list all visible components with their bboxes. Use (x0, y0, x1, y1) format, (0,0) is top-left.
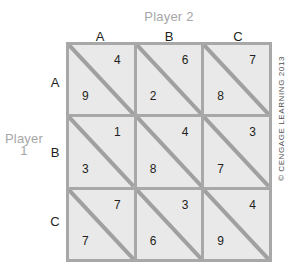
column-player-title: Player 2 (66, 9, 272, 24)
cell-diagonal-line (69, 117, 134, 186)
matrix-cell-b-b: 4 8 (137, 117, 202, 186)
matrix-cell-c-c: 4 9 (204, 190, 269, 259)
payoff-row-player: 6 (150, 235, 157, 247)
payoff-column-player: 7 (114, 199, 121, 211)
cell-diagonal-line (204, 45, 269, 114)
payoff-column-player: 4 (114, 54, 121, 66)
cell-diagonal-line (204, 190, 269, 259)
payoff-column-player: 6 (182, 54, 189, 66)
payoff-row-player: 8 (217, 90, 224, 102)
payoff-column-player: 4 (182, 126, 189, 138)
payoff-matrix-grid: 4 9 6 2 7 8 1 3 (66, 42, 272, 262)
payoff-column-player: 3 (182, 199, 189, 211)
matrix-cell-b-a: 1 3 (69, 117, 134, 186)
matrix-cell-b-c: 3 7 (204, 117, 269, 186)
matrix-cell-a-a: 4 9 (69, 45, 134, 114)
cell-diagonal-line (204, 117, 269, 186)
payoff-row-player: 7 (82, 235, 89, 247)
payoff-row-player: 9 (217, 235, 224, 247)
payoff-column-player: 7 (249, 54, 256, 66)
payoff-column-player: 1 (114, 126, 121, 138)
cell-diagonal-line (69, 190, 134, 259)
row-header-c: C (48, 214, 62, 229)
payoff-row-player: 8 (150, 163, 157, 175)
payoff-matrix-figure: Player 2 Player 1 A B C A B C 4 9 6 2 7 (0, 0, 298, 275)
row-header-b: B (48, 145, 62, 160)
matrix-cell-a-c: 7 8 (204, 45, 269, 114)
payoff-row-player: 9 (82, 90, 89, 102)
payoff-row-player: 3 (82, 163, 89, 175)
cell-diagonal-line (137, 117, 202, 186)
payoff-column-player: 3 (249, 126, 256, 138)
payoff-row-player: 7 (217, 163, 224, 175)
row-player-title: Player 1 (2, 133, 46, 157)
row-player-title-line2: 1 (2, 145, 46, 157)
matrix-cell-c-a: 7 7 (69, 190, 134, 259)
copyright-notice: © CENGAGE LEARNING 2013 (277, 44, 286, 194)
cell-diagonal-line (137, 190, 202, 259)
cell-diagonal-line (137, 45, 202, 114)
matrix-cell-a-b: 6 2 (137, 45, 202, 114)
cell-diagonal-line (69, 45, 134, 114)
payoff-row-player: 2 (150, 90, 157, 102)
payoff-column-player: 4 (249, 199, 256, 211)
row-header-a: A (48, 75, 62, 90)
matrix-cell-c-b: 3 6 (137, 190, 202, 259)
